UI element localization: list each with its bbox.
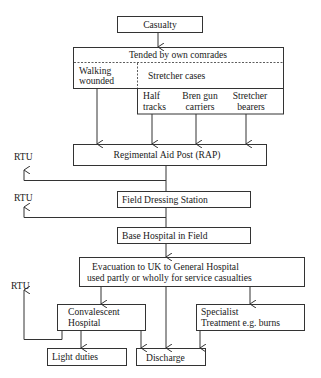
half-tracks-label-2: tracks (143, 101, 166, 112)
casualty-label: Casualty (143, 19, 177, 30)
flow-diagram: Casualty Tended by own comrades Walking … (0, 0, 321, 378)
stretcher-bearers-label-2: bearers (237, 101, 265, 112)
edge-rap-rtu (24, 170, 166, 181)
tended-label: Tended by own comrades (129, 49, 227, 60)
bren-gun-label-1: Bren gun (182, 90, 218, 101)
rap-label: Regimental Aid Post (RAP) (114, 149, 221, 161)
bren-gun-label-2: carriers (186, 101, 215, 112)
discharge-label: Discharge (146, 352, 185, 363)
stretcher-bearers-label-1: Stretcher (233, 90, 268, 101)
edge-fds-rtu (24, 207, 166, 218)
light-duties-label: Light duties (52, 351, 98, 362)
evacuation-label-2: used partly or wholly for service casual… (87, 272, 252, 283)
base-hospital-label: Base Hospital in Field (122, 230, 208, 241)
convalescent-label-1: Convalescent (68, 306, 120, 317)
rtu-label-2: RTU (14, 192, 33, 203)
half-tracks-label-1: Half (143, 90, 161, 101)
edge-convalescent-rtu (24, 290, 62, 340)
fds-label: Field Dressing Station (122, 194, 208, 205)
convalescent-label-2: Hospital (68, 317, 101, 328)
specialist-label-1: Specialist (201, 306, 239, 317)
walking-wounded-label-2: wounded (79, 75, 114, 86)
specialist-label-2: Treatment e.g. burns (201, 317, 280, 328)
rtu-label-1: RTU (14, 151, 33, 162)
rtu-label-3: RTU (11, 280, 30, 291)
stretcher-cases-label: Stretcher cases (148, 70, 206, 81)
evacuation-label-1: Evacuation to UK to General Hospital (92, 261, 239, 272)
